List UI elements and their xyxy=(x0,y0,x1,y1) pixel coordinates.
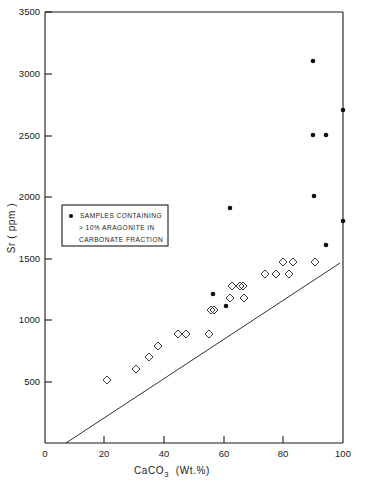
legend: SAMPLES CONTAINING > 10% ARAGONITE IN CA… xyxy=(62,205,168,246)
open-diamond-series xyxy=(103,258,319,384)
x-tick-label-60: 60 xyxy=(219,448,230,459)
data-point-filled-circle xyxy=(224,304,229,309)
data-point-open-diamond xyxy=(279,258,287,266)
data-point-open-diamond xyxy=(228,282,236,290)
y-tick-label-500: 500 xyxy=(24,376,40,387)
x-tick-label-100: 100 xyxy=(335,448,351,459)
legend-line-2-value: 10 xyxy=(86,224,94,231)
x-tick-label-80: 80 xyxy=(278,448,289,459)
x-tick-label-40: 40 xyxy=(159,448,170,459)
y-tick-label-1000: 1000 xyxy=(19,314,40,325)
data-point-filled-circle xyxy=(211,292,216,297)
x-axis-tick-labels: 0 20 40 60 80 100 xyxy=(42,448,351,459)
data-point-open-diamond xyxy=(145,353,153,361)
y-tick-label-3500: 3500 xyxy=(19,6,40,17)
y-tick-label-2000: 2000 xyxy=(19,191,40,202)
data-point-open-diamond xyxy=(182,330,190,338)
data-point-filled-circle xyxy=(324,133,329,138)
data-point-open-diamond xyxy=(174,330,182,338)
data-point-open-diamond xyxy=(261,270,269,278)
trend-line-group xyxy=(66,263,340,443)
data-point-open-diamond xyxy=(285,270,293,278)
scatter-plot-figure: 3500 3000 2500 2000 1500 1000 500 0 20 4… xyxy=(0,0,367,481)
x-tick-label-0: 0 xyxy=(42,448,47,459)
y-tick-label-1500: 1500 xyxy=(19,253,40,264)
regression-line xyxy=(66,263,340,443)
x-axis-title-main: CaCO xyxy=(134,465,164,476)
legend-line-3: CARBONATE FRACTION xyxy=(79,236,163,243)
x-tick-label-20: 20 xyxy=(99,448,110,459)
data-point-open-diamond xyxy=(239,282,247,290)
data-point-filled-circle xyxy=(341,108,346,113)
data-point-open-diamond xyxy=(226,294,234,302)
legend-line-1: SAMPLES CONTAINING xyxy=(80,212,162,219)
y-tick-label-2500: 2500 xyxy=(19,130,40,141)
data-point-open-diamond xyxy=(132,365,140,373)
data-point-filled-circle xyxy=(228,206,233,211)
x-axis-ticks xyxy=(104,436,283,443)
data-point-filled-circle xyxy=(311,133,316,138)
legend-filled-circle-icon xyxy=(69,214,73,218)
x-axis-title: CaCO3 (Wt.%) xyxy=(134,465,210,479)
data-point-open-diamond xyxy=(210,306,218,314)
y-tick-label-3000: 3000 xyxy=(19,68,40,79)
data-point-open-diamond xyxy=(154,342,162,350)
data-point-filled-circle xyxy=(312,194,317,199)
data-point-open-diamond xyxy=(240,294,248,302)
data-point-open-diamond xyxy=(289,258,297,266)
data-point-filled-circle xyxy=(311,59,316,64)
legend-line-2-rest: ARAGONITE IN xyxy=(102,224,155,231)
data-point-open-diamond xyxy=(207,306,215,314)
y-axis-tick-labels: 3500 3000 2500 2000 1500 1000 500 xyxy=(19,6,40,387)
y-axis-title: Sr ( ppm ) xyxy=(6,203,17,253)
y-axis-ticks xyxy=(45,12,52,382)
data-point-open-diamond xyxy=(205,330,213,338)
data-point-open-diamond xyxy=(272,270,280,278)
filled-circle-series xyxy=(211,59,346,309)
legend-line-2: > 10% ARAGONITE IN xyxy=(79,224,155,231)
data-point-open-diamond xyxy=(311,258,319,266)
x-axis-title-unit: (Wt.%) xyxy=(176,465,210,476)
x-axis-title-unit-space xyxy=(169,465,176,476)
chart-canvas: 3500 3000 2500 2000 1500 1000 500 0 20 4… xyxy=(0,0,367,481)
data-point-open-diamond xyxy=(236,282,244,290)
data-point-filled-circle xyxy=(341,219,346,224)
data-point-filled-circle xyxy=(324,243,329,248)
data-point-open-diamond xyxy=(103,376,111,384)
